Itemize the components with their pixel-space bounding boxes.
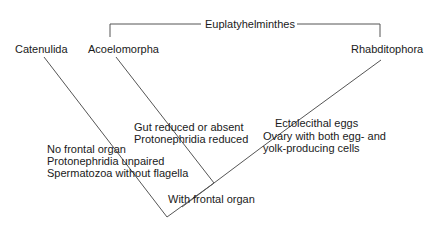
clade-label-euplatyhelminthes: Euplatyhelminthes (205, 18, 295, 30)
character-rhabditophora-2: Ovary with both egg- and (263, 130, 386, 142)
character-acoelomorpha-2: Protonephridia reduced (134, 133, 248, 145)
taxon-acoelomorpha: Acoelomorpha (88, 43, 159, 55)
character-root-node: With frontal organ (168, 193, 255, 205)
character-rhabditophora-1: Ectolecithal eggs (275, 117, 358, 129)
character-catenulida-3: Spermatozoa without flagella (47, 167, 188, 179)
character-acoelomorpha-1: Gut reduced or absent (134, 121, 243, 133)
character-catenulida-1: No frontal organ (47, 143, 126, 155)
taxon-catenulida: Catenulida (15, 43, 68, 55)
character-rhabditophora-3: yolk-producing cells (263, 142, 360, 154)
bracket-right (297, 24, 380, 37)
taxon-rhabditophora: Rhabditophora (351, 43, 423, 55)
character-catenulida-2: Protonephridia unpaired (47, 155, 164, 167)
branch-rhabditophora-lower (214, 147, 262, 183)
bracket-left (110, 24, 201, 37)
